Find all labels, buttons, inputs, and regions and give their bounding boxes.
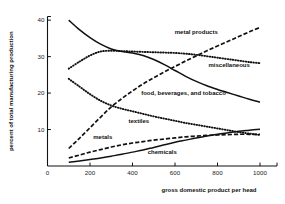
x-tick-label: 400 [127, 169, 138, 176]
x-tick-label: 1000 [253, 169, 267, 176]
y-axis-title: percent of total manufacturing productio… [8, 31, 14, 151]
x-tick-label: 0 [46, 169, 50, 176]
x-axis-title: gross domestic product per head [161, 187, 256, 193]
y-tick-label: 10 [38, 126, 45, 133]
chart-canvas: 10203040 percent of total manufacturing … [0, 0, 285, 204]
series-label-chemicals: chemicals [148, 149, 178, 155]
y-axis-group: 10203040 percent of total manufacturing … [8, 16, 51, 166]
x-axis-ticks: 02004006008001000 [46, 163, 277, 176]
x-axis-group: 02004006008001000 gross domestic product… [46, 163, 277, 193]
series-line-textiles [69, 79, 260, 135]
y-tick-label: 20 [38, 89, 45, 96]
x-tick-label: 600 [170, 169, 181, 176]
x-tick-label: 200 [85, 169, 96, 176]
y-tick-label: 40 [38, 16, 45, 23]
x-tick-label: 800 [212, 169, 223, 176]
y-axis-ticks: 10203040 [38, 16, 51, 132]
chart-figure: 10203040 percent of total manufacturing … [0, 0, 285, 204]
series-label-metals: metals [93, 134, 113, 140]
series-label-food-beverages-and-tobacco: food, beverages, and tobacco [141, 90, 226, 96]
series-label-miscellaneous: miscellaneous [209, 62, 251, 68]
y-tick-label: 30 [38, 53, 45, 60]
series-line-metal-products [69, 27, 260, 148]
series-label-metal-products: metal products [175, 29, 219, 35]
series-label-textiles: textiles [129, 118, 150, 124]
